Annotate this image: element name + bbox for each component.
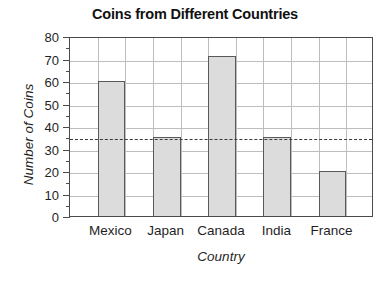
plot-area bbox=[69, 37, 373, 217]
y-tick-label-50: 50 bbox=[33, 98, 59, 111]
x-axis-title: Country bbox=[69, 249, 373, 264]
y-minor-tick-25 bbox=[66, 161, 71, 162]
y-tick-label-80: 80 bbox=[33, 31, 59, 44]
gridline-x-8 bbox=[291, 38, 292, 216]
y-minor-tick-75 bbox=[66, 48, 71, 49]
y-tick-40 bbox=[63, 127, 70, 128]
x-tick-label-india: India bbox=[262, 223, 291, 238]
x-tick-label-canada: Canada bbox=[197, 223, 244, 238]
y-tick-label-40: 40 bbox=[33, 121, 59, 134]
y-tick-label-30: 30 bbox=[33, 143, 59, 156]
chart-title: Coins from Different Countries bbox=[0, 6, 390, 22]
y-minor-tick-45 bbox=[66, 116, 71, 117]
bar-india bbox=[263, 137, 291, 216]
x-tick-label-mexico: Mexico bbox=[89, 223, 132, 238]
y-tick-60 bbox=[63, 82, 70, 83]
bar-chart-figure: Coins from Different Countries Number of… bbox=[0, 0, 390, 285]
bar-mexico bbox=[98, 81, 126, 216]
y-tick-label-70: 70 bbox=[33, 53, 59, 66]
bar-canada bbox=[208, 56, 236, 216]
y-minor-tick-35 bbox=[66, 138, 71, 139]
gridline-x-4 bbox=[181, 38, 182, 216]
y-tick-30 bbox=[63, 150, 70, 151]
y-tick-label-20: 20 bbox=[33, 166, 59, 179]
reference-line-35 bbox=[70, 139, 372, 140]
y-tick-label-10: 10 bbox=[33, 188, 59, 201]
y-tick-70 bbox=[63, 60, 70, 61]
y-tick-50 bbox=[63, 105, 70, 106]
y-tick-label-0: 0 bbox=[33, 211, 59, 224]
y-minor-tick-15 bbox=[66, 183, 71, 184]
y-tick-0 bbox=[63, 217, 70, 218]
gridline-x-6 bbox=[236, 38, 237, 216]
y-minor-tick-55 bbox=[66, 93, 71, 94]
gridline-x-10 bbox=[346, 38, 347, 216]
bar-france bbox=[319, 171, 347, 216]
y-minor-tick-65 bbox=[66, 71, 71, 72]
bar-japan bbox=[153, 137, 181, 216]
y-tick-80 bbox=[63, 37, 70, 38]
x-tick-label-france: France bbox=[311, 223, 353, 238]
x-tick-label-japan: Japan bbox=[147, 223, 184, 238]
gridline-x-2 bbox=[125, 38, 126, 216]
y-tick-10 bbox=[63, 195, 70, 196]
y-tick-label-60: 60 bbox=[33, 76, 59, 89]
y-minor-tick-5 bbox=[66, 206, 71, 207]
y-tick-20 bbox=[63, 172, 70, 173]
